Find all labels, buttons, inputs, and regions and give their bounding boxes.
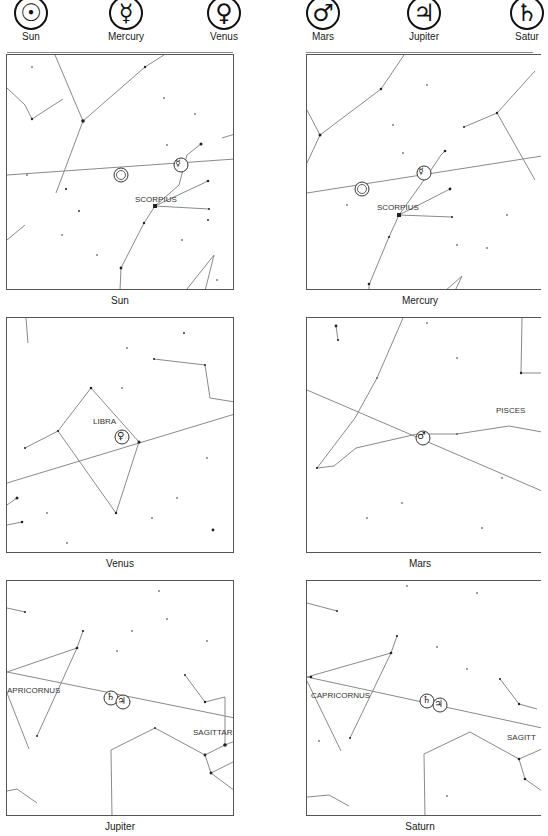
star-chart-saturn: ♄ ♃ CAPRICORNUS SAGITT — [306, 580, 541, 816]
planet-marker-mars: ♂ — [417, 430, 426, 441]
panel-caption: Saturn — [306, 821, 534, 832]
panel-caption: Mars — [306, 558, 534, 569]
constellation-label: SCORPIUS — [377, 203, 419, 212]
constellation-label: SAGITT — [507, 733, 536, 742]
sun-symbol-icon: ☉ — [14, 0, 48, 30]
legend-sun: ☉ Sun — [1, 0, 61, 42]
legend-mars: ♂ Mars — [293, 0, 353, 42]
constellation-label: SCORPIUS — [135, 195, 177, 204]
legend-venus: ♀ Venus — [194, 0, 254, 42]
saturn-symbol-icon: ♄ — [510, 0, 544, 30]
legend-mercury: ☿ Mercury — [96, 0, 156, 42]
star-chart-sun: ☿ SCORPIUS — [6, 54, 234, 290]
planet-marker-mercury: ☿ — [175, 158, 181, 168]
legend-label: Sun — [1, 31, 61, 42]
planet-marker-saturn: ♄ — [106, 691, 115, 702]
star-chart-mercury: ☿ SCORPIUS — [306, 54, 541, 290]
planet-marker-saturn: ♄ — [422, 694, 431, 705]
star-chart-mars: ♂ PISCES — [306, 317, 541, 553]
legend-label: Venus — [194, 31, 254, 42]
jupiter-symbol-icon: ♃ — [407, 0, 441, 30]
mars-symbol-icon: ♂ — [306, 0, 340, 30]
panel-caption: Sun — [6, 295, 234, 306]
planet-marker-jupiter: ♃ — [434, 698, 443, 709]
panel-caption: Mercury — [306, 295, 534, 306]
divider — [7, 52, 233, 53]
mercury-symbol-icon: ☿ — [109, 0, 143, 30]
legend-label: Mars — [293, 31, 353, 42]
panel-caption: Venus — [6, 558, 234, 569]
star-chart-jupiter: ♄ ♃ APRICORNUS SAGITTARI — [6, 580, 234, 816]
sky-map — [7, 55, 234, 290]
planet-marker-venus: ♀ — [117, 430, 124, 441]
sky-map — [307, 55, 541, 290]
venus-symbol-icon: ♀ — [207, 0, 241, 30]
divider — [306, 52, 533, 53]
constellation-label: PISCES — [496, 406, 525, 415]
legend-label: Jupiter — [394, 31, 454, 42]
constellation-label: CAPRICORNUS — [311, 691, 370, 700]
star-chart-venus: ♀ LIBRA — [6, 317, 234, 553]
constellation-label: LIBRA — [93, 417, 116, 426]
planet-marker-mercury: ☿ — [418, 166, 424, 176]
legend-label: Mercury — [96, 31, 156, 42]
legend-saturn: ♄ Satur — [497, 0, 548, 42]
legend-label: Satur — [497, 31, 548, 42]
constellation-label: SAGITTARI — [193, 728, 234, 737]
constellation-label: APRICORNUS — [7, 686, 60, 695]
planet-marker-jupiter: ♃ — [117, 695, 126, 706]
legend-jupiter: ♃ Jupiter — [394, 0, 454, 42]
panel-caption: Jupiter — [6, 821, 234, 832]
